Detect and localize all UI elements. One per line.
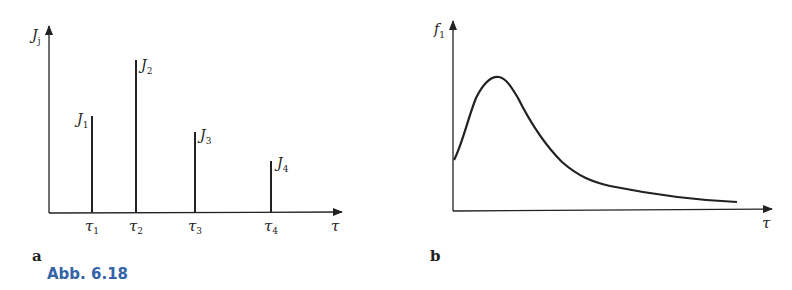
bar-label-2: J2 [138, 57, 152, 76]
y-axis-label-b: f1 [433, 21, 445, 40]
panel-b: f1 τ b [430, 21, 772, 265]
x-axis-label-a: τ [331, 217, 340, 235]
figure-caption: Abb. 6.18 [47, 265, 128, 283]
y-axis-label-a: Jj [29, 27, 40, 46]
tick-label-1: τ1 [85, 217, 99, 236]
x-axis-label-b: τ [762, 214, 771, 232]
distribution-curve [454, 77, 737, 202]
x-axis-b [453, 209, 772, 211]
bar-label-1: J1 [74, 111, 88, 130]
tick-label-2: τ2 [129, 217, 143, 236]
panel-label-b: b [430, 247, 441, 265]
figure-canvas: Jj τ J1 J2 J3 J4 τ1 τ2 τ3 τ4 a f1 τ b [0, 0, 792, 290]
panel-a: Jj τ J1 J2 J3 J4 τ1 τ2 τ3 τ4 a [29, 26, 342, 265]
bar-label-4: J4 [274, 155, 289, 174]
panel-label-a: a [32, 247, 42, 265]
tick-label-3: τ3 [188, 217, 202, 236]
bar-label-3: J3 [197, 127, 212, 146]
tick-label-4: τ4 [264, 217, 278, 236]
